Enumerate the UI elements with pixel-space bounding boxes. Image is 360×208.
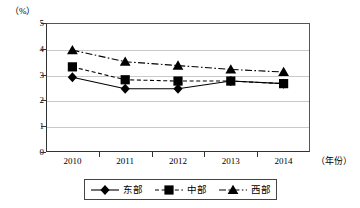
- legend-key-square: [154, 184, 184, 196]
- triangle-marker: [173, 60, 184, 69]
- square-marker: [121, 75, 130, 84]
- line-chart-figure: （%） 012345 20102011201220132014 （年份） 东部中…: [0, 0, 360, 208]
- triangle-marker: [67, 45, 78, 54]
- x-axis-title: （年份）: [316, 156, 352, 166]
- triangle-marker: [225, 64, 236, 73]
- legend-key-diamond: [90, 184, 120, 196]
- x-axis-tick-mark: [99, 152, 100, 157]
- triangle-marker: [227, 184, 238, 193]
- y-axis-tick-mark: [41, 152, 46, 153]
- diamond-marker: [121, 84, 130, 94]
- square-marker: [164, 185, 173, 194]
- y-axis-unit-label: （%）: [10, 6, 36, 16]
- triangle-marker: [278, 67, 289, 76]
- legend-item[interactable]: 中部: [154, 184, 207, 196]
- legend-label: 东部: [123, 185, 143, 195]
- legend-label: 西部: [251, 185, 271, 195]
- square-marker: [279, 79, 288, 88]
- x-axis-tick-mark: [257, 152, 258, 157]
- x-axis-tick-mark: [204, 152, 205, 157]
- x-axis-tick-label: 2011: [105, 156, 145, 166]
- series-layer: [46, 23, 310, 152]
- legend-label: 中部: [187, 185, 207, 195]
- x-axis-tick-label: 2012: [158, 156, 198, 166]
- x-axis-tick-mark: [152, 152, 153, 157]
- diamond-marker: [68, 72, 77, 82]
- legend-item[interactable]: 东部: [90, 184, 143, 196]
- square-marker: [173, 76, 182, 85]
- legend-item[interactable]: 西部: [218, 184, 271, 196]
- series-西部: [67, 45, 289, 76]
- x-axis-tick-label: 2010: [52, 156, 92, 166]
- x-axis-tick-label: 2013: [211, 156, 251, 166]
- chart-legend: 东部中部西部: [84, 179, 277, 200]
- diamond-marker: [101, 185, 110, 195]
- legend-key-triangle: [218, 184, 248, 196]
- square-marker: [68, 62, 77, 71]
- square-marker: [226, 76, 235, 85]
- x-axis-tick-label: 2014: [264, 156, 304, 166]
